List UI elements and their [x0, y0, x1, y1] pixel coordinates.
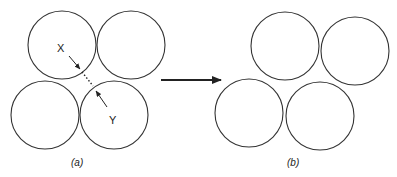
- caption-a: (a): [71, 157, 83, 168]
- circle-b-bottom-right: [286, 82, 354, 150]
- caption-b: (b): [287, 157, 299, 168]
- circle-b-bottom-left: [215, 79, 283, 147]
- circle-b-top-right: [321, 17, 389, 85]
- gap-dotted-line: [82, 72, 93, 86]
- close-packing-diagram: X Y (a) (b): [0, 0, 397, 177]
- panel-b-close-packed-arrangement: (b): [215, 12, 389, 168]
- label-x: X: [57, 42, 65, 54]
- arrow-x-to-gap-icon: [69, 56, 80, 69]
- circle-a-top-right: [97, 11, 165, 79]
- circle-a-bottom-left: [11, 81, 79, 149]
- arrow-y-to-gap-icon: [96, 91, 107, 107]
- circle-b-top-left: [251, 12, 319, 80]
- label-y: Y: [109, 114, 117, 126]
- panel-a-square-arrangement: X Y (a): [11, 11, 165, 168]
